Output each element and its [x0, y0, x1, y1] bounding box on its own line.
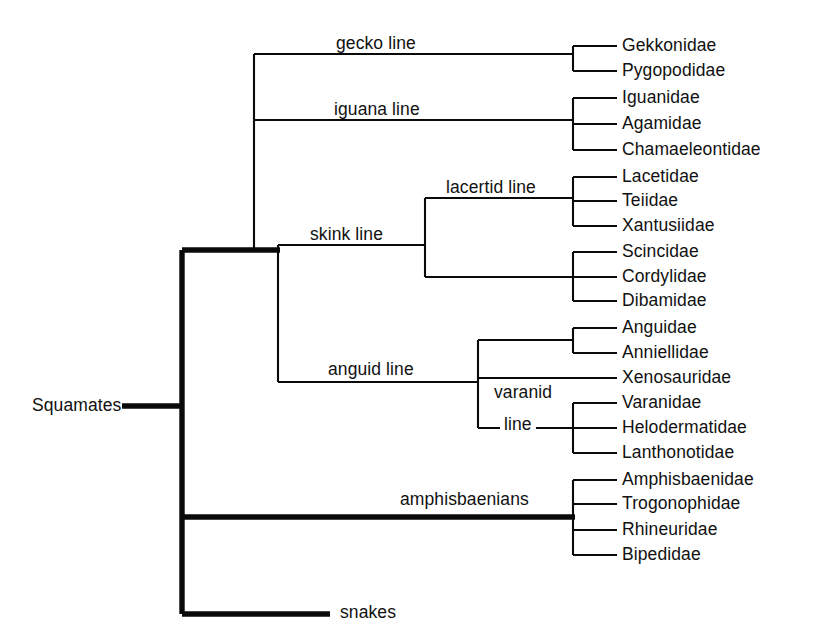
leaf-label-teiidae: Teiidae [622, 192, 678, 210]
root-label-squamates: Squamates [32, 397, 121, 415]
leaf-label-helodermatidae: Helodermatidae [622, 419, 747, 437]
node-label-amphisbaenians: amphisbaenians [396, 491, 533, 509]
leaf-label-chamaeleontidae: Chamaeleontidae [622, 141, 761, 159]
cladogram-figure: GekkonidaePygopodidaeIguanidaeAgamidaeCh… [0, 0, 832, 635]
node-label-varanid-word: varanid [490, 384, 556, 402]
leaf-label-pygopodidae: Pygopodidae [622, 62, 725, 80]
leaf-label-iguanidae: Iguanidae [622, 89, 700, 107]
leaf-label-cordylidae: Cordylidae [622, 268, 707, 286]
leaf-label-lacetidae: Lacetidae [622, 168, 699, 186]
leaf-label-rhineuridae: Rhineuridae [622, 521, 717, 539]
leaf-label-amphisbaenidae: Amphisbaenidae [622, 471, 754, 489]
leaf-label-xantusiidae: Xantusiidae [622, 217, 715, 235]
node-label-anguid-line: anguid line [324, 361, 418, 379]
node-label-lacertid-line: lacertid line [442, 179, 540, 197]
node-label-iguana-line: iguana line [330, 101, 424, 119]
leaf-label-anniellidae: Anniellidae [622, 344, 709, 362]
branch-layer [122, 46, 617, 614]
leaf-stem-layer [573, 46, 617, 555]
leaf-label-gekkonidae: Gekkonidae [622, 37, 716, 55]
leaf-label-varanidae: Varanidae [622, 394, 701, 412]
node-label-varanid-line-word: line [500, 416, 536, 434]
node-label-skink-line: skink line [306, 226, 387, 244]
leaf-label-bipedidae: Bipedidae [622, 546, 701, 564]
node-label-gecko-line: gecko line [332, 35, 420, 53]
leaf-label-agamidae: Agamidae [622, 115, 702, 133]
leaf-label-xenosauridae: Xenosauridae [622, 369, 731, 387]
leaf-label-anguidae: Anguidae [622, 319, 697, 337]
leaf-label-trogonophidae: Trogonophidae [622, 495, 740, 513]
node-label-snakes: snakes [336, 604, 400, 622]
leaf-label-lanthonotidae: Lanthonotidae [622, 444, 734, 462]
leaf-label-dibamidae: Dibamidae [622, 292, 707, 310]
leaf-label-scincidae: Scincidae [622, 243, 699, 261]
cladogram-branch-lines [0, 0, 832, 635]
